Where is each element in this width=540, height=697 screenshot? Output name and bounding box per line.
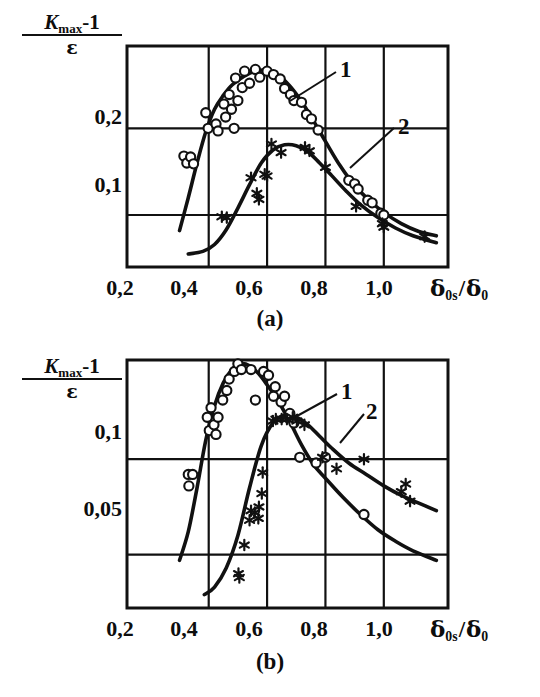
curve-tag-b-1: 1 bbox=[341, 380, 353, 403]
x-axis-title-b-delta2: δ bbox=[466, 615, 481, 642]
x-axis-title-a-slash: / bbox=[458, 276, 466, 301]
y-axis-label-a-denominator: ε bbox=[22, 36, 122, 57]
y-tick-b-0: 0,1 bbox=[62, 421, 122, 443]
y-tick-a-0: 0,2 bbox=[62, 106, 122, 128]
y-axis-label-b-denominator: ε bbox=[22, 380, 122, 401]
x-tick-a-3: 0,8 bbox=[284, 277, 344, 299]
x-axis-title-b: δ0s/δ0 bbox=[430, 617, 488, 641]
chart-panel-b: Kmax-1 ε 0,1 0,05 0,2 0,4 0,6 0,8 1,0 δ0… bbox=[0, 348, 540, 697]
y-axis-label-b-K: K bbox=[44, 354, 58, 378]
y-axis-label-a-tail: -1 bbox=[82, 10, 100, 34]
x-tick-a-1: 0,4 bbox=[154, 277, 214, 299]
y-axis-label-a-sub: max bbox=[58, 21, 82, 36]
x-tick-a-0: 0,2 bbox=[90, 277, 150, 299]
y-axis-label-b-sub: max bbox=[58, 365, 82, 380]
x-axis-title-a-delta2: δ bbox=[466, 274, 481, 301]
y-axis-label-a-K: K bbox=[44, 10, 58, 34]
x-tick-a-2: 0,6 bbox=[219, 277, 279, 299]
panel-caption-a: (a) bbox=[225, 307, 315, 330]
x-tick-a-4: 1,0 bbox=[349, 277, 409, 299]
x-axis-title-b-sub1: 0s bbox=[445, 629, 457, 644]
x-axis-title-a-sub2: 0 bbox=[481, 288, 488, 303]
curve-tag-a-1: 1 bbox=[340, 58, 352, 81]
x-axis-title-a-delta1: δ bbox=[430, 274, 445, 301]
x-tick-b-1: 0,4 bbox=[154, 618, 214, 640]
y-tick-a-1: 0,1 bbox=[62, 174, 122, 196]
y-axis-label-b-tail: -1 bbox=[82, 354, 100, 378]
x-axis-title-a: δ0s/δ0 bbox=[430, 276, 488, 300]
x-axis-title-b-sub2: 0 bbox=[481, 629, 488, 644]
x-tick-b-0: 0,2 bbox=[90, 618, 150, 640]
x-axis-title-b-slash: / bbox=[458, 617, 466, 642]
x-tick-b-2: 0,6 bbox=[219, 618, 279, 640]
y-tick-b-1: 0,05 bbox=[42, 498, 122, 520]
y-axis-label-a: Kmax-1 ε bbox=[22, 12, 122, 57]
x-tick-b-3: 0,8 bbox=[284, 618, 344, 640]
figure-two-panel-chart: Kmax-1 ε 0,2 0,1 0,2 0,4 0,6 0,8 1,0 δ0s… bbox=[0, 0, 540, 697]
x-axis-title-a-sub1: 0s bbox=[445, 288, 457, 303]
x-axis-title-b-delta1: δ bbox=[430, 615, 445, 642]
curve-tag-a-2: 2 bbox=[398, 115, 410, 138]
x-tick-b-4: 1,0 bbox=[349, 618, 409, 640]
y-axis-label-b: Kmax-1 ε bbox=[22, 356, 122, 401]
panel-caption-b: (b) bbox=[225, 650, 315, 673]
chart-panel-a: Kmax-1 ε 0,2 0,1 0,2 0,4 0,6 0,8 1,0 δ0s… bbox=[0, 0, 540, 348]
curve-tag-b-2: 2 bbox=[366, 400, 378, 423]
